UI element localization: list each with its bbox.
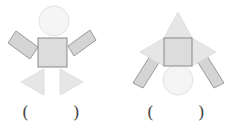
figure-2-bottom-circle [163,65,193,95]
figure-1-right-arm-rectangle [68,30,96,56]
figure-2-answer-blank[interactable] [159,104,197,122]
figure-2 [133,12,224,95]
figure-1-left-leg-triangle [21,69,44,95]
figure-2-top-triangle [164,12,192,38]
figure-2-answer-open-paren: ( [147,104,154,121]
figure-1-head-circle [39,6,69,36]
figure-1-answer-open-paren: ( [22,104,29,121]
figure-2-body-square [164,38,192,66]
figure-2-answer-close-paren: ) [198,104,205,121]
figure-1-left-arm-rectangle [8,31,38,59]
figure-1-body-square [38,38,67,67]
figure-1-answer-close-paren: ) [73,104,80,121]
figure-1-right-leg-triangle [60,69,83,95]
figure-1-answer-blank[interactable] [34,104,72,122]
figure-1 [8,6,96,95]
